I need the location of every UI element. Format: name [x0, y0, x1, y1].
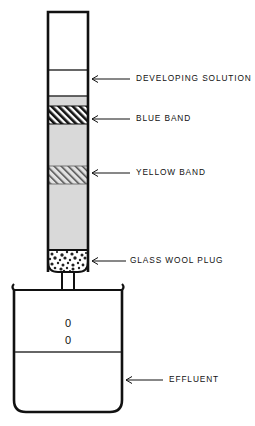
beaker-outline	[14, 290, 122, 412]
chromatography-column	[48, 12, 88, 307]
diagram-canvas: 0 0 DEVELOPING SOLUTION BLUE BAND YELLOW…	[0, 0, 255, 426]
glass-wool-plug	[48, 250, 88, 272]
label-developing-solution: DEVELOPING SOLUTION	[136, 73, 252, 83]
developing-solution-layer	[48, 70, 88, 96]
callout-blue-band: BLUE BAND	[92, 113, 191, 123]
label-glass-wool-plug: GLASS WOOL PLUG	[130, 255, 223, 265]
label-yellow-band: YELLOW BAND	[136, 167, 206, 177]
label-blue-band: BLUE BAND	[136, 113, 191, 123]
column-headspace	[48, 12, 88, 70]
callout-glass-wool-plug: GLASS WOOL PLUG	[92, 255, 223, 265]
beaker-rim-right-lip	[122, 284, 124, 290]
drop-upper: 0	[65, 317, 71, 329]
beaker-spout	[13, 284, 15, 290]
callout-developing-solution: DEVELOPING SOLUTION	[92, 73, 252, 83]
chromatography-diagram: 0 0 DEVELOPING SOLUTION BLUE BAND YELLOW…	[0, 0, 255, 426]
callout-effluent: EFFLUENT	[126, 374, 219, 384]
label-effluent: EFFLUENT	[169, 374, 219, 384]
yellow-band-region	[48, 166, 88, 184]
callout-yellow-band: YELLOW BAND	[92, 167, 206, 177]
effluent-beaker: 0 0	[13, 284, 124, 412]
blue-band-region	[48, 106, 88, 124]
drop-lower: 0	[65, 334, 71, 346]
